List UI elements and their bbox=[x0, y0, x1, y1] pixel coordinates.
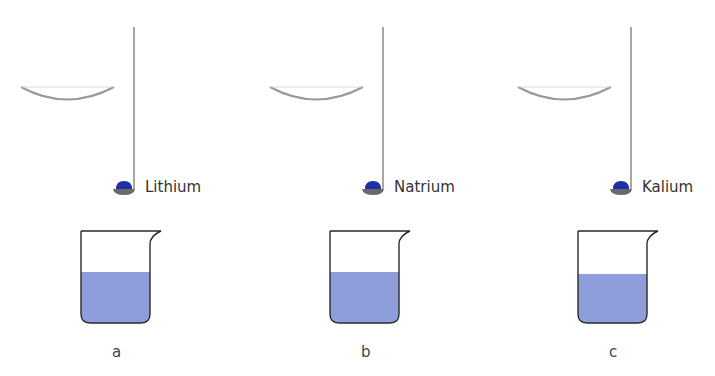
metal-piece-icon bbox=[365, 181, 381, 189]
watch-glass-icon bbox=[518, 87, 611, 100]
beaker-label: a bbox=[112, 343, 121, 361]
setup-c: Kalium c bbox=[497, 0, 715, 376]
metal-label: Lithium bbox=[145, 178, 201, 196]
beaker-label: c bbox=[609, 343, 617, 361]
metal-piece-icon bbox=[613, 181, 629, 189]
watch-glass-icon bbox=[21, 87, 114, 100]
spoon-icon bbox=[362, 189, 384, 195]
spoon-icon bbox=[610, 189, 632, 195]
setup-b: Natrium b bbox=[249, 0, 489, 376]
metal-label: Kalium bbox=[642, 178, 693, 196]
metal-label: Natrium bbox=[394, 178, 455, 196]
experiment-diagram: Lithium a Natrium b Kalium c bbox=[0, 0, 715, 376]
metal-piece-icon bbox=[116, 181, 132, 189]
watch-glass-icon bbox=[270, 87, 363, 100]
beaker-water bbox=[330, 272, 399, 323]
apparatus-a bbox=[0, 0, 240, 376]
beaker-label: b bbox=[361, 343, 371, 361]
spoon-icon bbox=[113, 189, 135, 195]
setup-a: Lithium a bbox=[0, 0, 240, 376]
beaker-water bbox=[81, 272, 150, 323]
beaker-water bbox=[578, 274, 647, 323]
